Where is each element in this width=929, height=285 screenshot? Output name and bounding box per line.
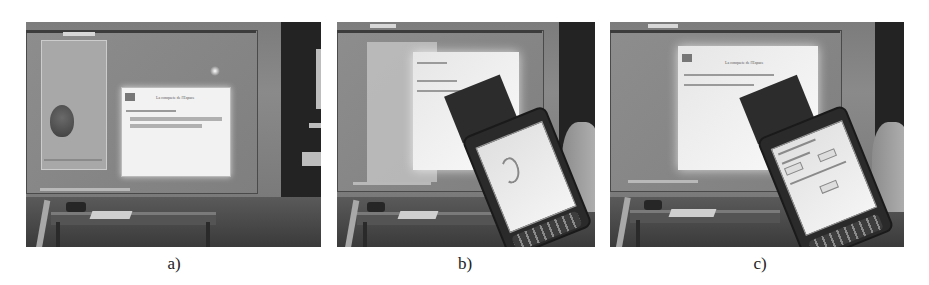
handwriting-stroke bbox=[497, 155, 523, 186]
slide-text-line bbox=[126, 110, 176, 112]
caption-b: b) bbox=[445, 254, 485, 274]
projector-glare bbox=[210, 66, 220, 76]
board-label bbox=[63, 32, 95, 36]
table-leg bbox=[206, 222, 210, 247]
slide-text-line bbox=[130, 117, 222, 121]
papers bbox=[398, 211, 439, 219]
cabinet-panel bbox=[316, 49, 321, 109]
pda-ok-button bbox=[819, 180, 839, 194]
slide-logo bbox=[682, 54, 692, 62]
slide-window: La conquete de l'Espace bbox=[121, 87, 231, 177]
table-leg bbox=[363, 222, 367, 247]
slide-title: La conquete de l'Espace bbox=[156, 95, 195, 100]
person-face bbox=[50, 105, 74, 137]
board-label bbox=[370, 24, 396, 28]
photo-panel-a: La conquete de l'Espace bbox=[26, 22, 321, 247]
video-window bbox=[41, 40, 107, 170]
photo-panel-b bbox=[337, 22, 595, 247]
table-leg bbox=[636, 220, 640, 247]
slide-text-line bbox=[684, 74, 774, 76]
papers bbox=[90, 211, 133, 219]
slide-text-line bbox=[130, 124, 202, 128]
board-tray bbox=[40, 188, 130, 191]
board-tray bbox=[353, 182, 431, 185]
slide-text-line bbox=[417, 62, 447, 64]
pda-form-field bbox=[784, 162, 804, 176]
photo-panel-c: La conquete de l'Espace bbox=[610, 22, 904, 247]
cabinet-device bbox=[302, 152, 321, 166]
caption-a: a) bbox=[154, 254, 194, 274]
slide-logo bbox=[125, 93, 135, 101]
telephone bbox=[644, 200, 662, 210]
video-controls bbox=[44, 159, 102, 161]
telephone bbox=[367, 202, 385, 212]
board-top-rail bbox=[610, 30, 840, 33]
papers bbox=[669, 209, 717, 217]
board-tray bbox=[628, 180, 698, 183]
board-top-rail bbox=[337, 30, 542, 33]
table bbox=[51, 212, 216, 225]
telephone bbox=[66, 202, 86, 212]
slide-text-line bbox=[417, 80, 457, 82]
board-label bbox=[648, 24, 678, 28]
cabinet-switch bbox=[309, 123, 321, 128]
slide-title: La conquete de l'Espace bbox=[725, 60, 764, 65]
pda-form-field bbox=[817, 148, 837, 162]
board-top-rail bbox=[26, 30, 256, 33]
table-leg bbox=[56, 222, 60, 247]
caption-c: c) bbox=[740, 254, 780, 274]
slide-text-line bbox=[684, 84, 754, 86]
